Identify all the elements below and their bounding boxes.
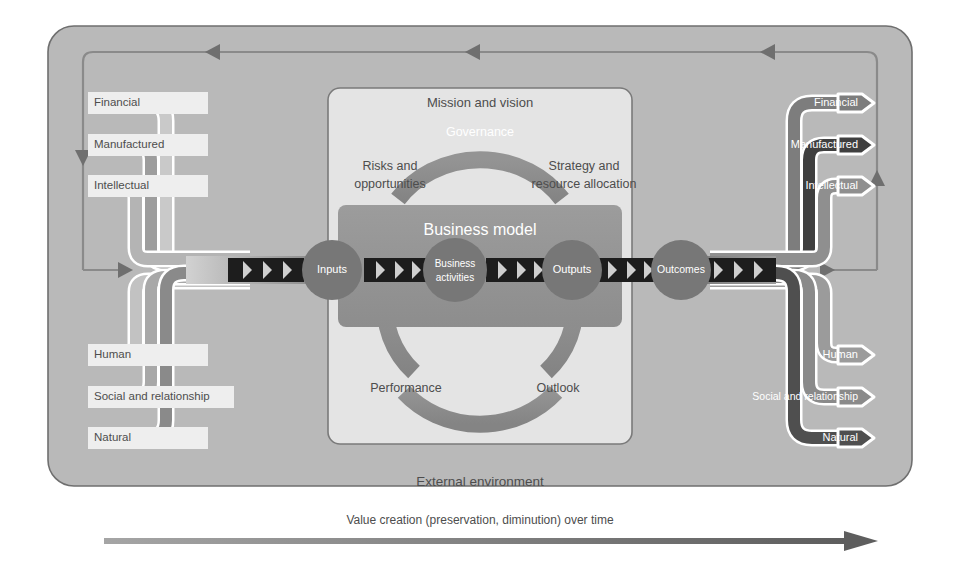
- capital-in-label-natural: Natural: [94, 431, 131, 443]
- process-node-outputs-label: Outputs: [553, 263, 592, 275]
- capital-in-label-human: Human: [94, 348, 131, 360]
- ring-label-mission-and-vision: Mission and vision: [427, 95, 533, 110]
- process-node-activities-line2: activities: [436, 272, 474, 283]
- capital-in-label-financial: Financial: [94, 96, 140, 108]
- process-node-business-activities: [423, 238, 487, 302]
- capital-out-label-human: Human: [823, 348, 858, 360]
- diagram-canvas: External environment: [0, 0, 960, 564]
- capital-out-label-social: Social and relationship: [752, 390, 858, 402]
- capital-out-label-natural: Natural: [823, 431, 858, 443]
- ring-label-performance: Performance: [370, 381, 442, 395]
- capital-out-label-manufactured: Manufactured: [791, 138, 858, 150]
- timeline-bar: [104, 538, 844, 544]
- business-model-label: Business model: [424, 221, 537, 238]
- capital-out-label-financial: Financial: [814, 96, 858, 108]
- timeline-arrow-icon: [844, 531, 878, 551]
- ring-label-strategy-line2: resource allocation: [532, 177, 637, 191]
- external-environment-label: External environment: [416, 474, 544, 489]
- capital-out-label-intellectual: Intellectual: [805, 179, 858, 191]
- capital-in-label-intellectual: Intellectual: [94, 179, 149, 191]
- ring-label-outlook: Outlook: [536, 381, 580, 395]
- ring-label-risks-line2: opportunities: [354, 177, 426, 191]
- ring-label-risks-line1: Risks and: [363, 159, 418, 173]
- capital-in-label-manufactured: Manufactured: [94, 138, 164, 150]
- capital-in-label-social: Social and relationship: [94, 390, 210, 402]
- process-node-outcomes-label: Outcomes: [657, 263, 705, 275]
- timeline-caption: Value creation (preservation, diminution…: [346, 513, 614, 527]
- process-node-activities-line1: Business: [435, 258, 476, 269]
- ring-label-governance: Governance: [446, 125, 514, 139]
- ring-label-strategy-line1: Strategy and: [549, 159, 620, 173]
- timeline: Value creation (preservation, diminution…: [104, 513, 878, 551]
- process-node-inputs-label: Inputs: [317, 263, 347, 275]
